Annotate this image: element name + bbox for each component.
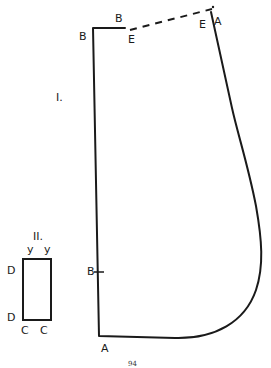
label-y-left: y [27,243,34,256]
label-d-lower: D [7,311,15,324]
pattern-outline [93,12,261,338]
label-top-b: B [115,12,123,25]
label-y-right: y [44,243,51,256]
label-top-right-a: A [214,15,222,28]
pattern-piece-2: II. y y D D C C [7,230,51,337]
label-dashed-start-e: E [128,33,135,46]
pattern-diagram: I. B B E E A B A II. y y D D C C 94 [0,0,271,368]
pattern-piece-1: I. B B E E A B A [56,6,261,355]
label-bottom-a: A [101,342,109,355]
dashed-end-dot [212,6,214,8]
small-rectangle [23,259,51,320]
page-number: 94 [128,360,137,368]
label-top-left-b: B [79,30,87,43]
label-d-upper: D [7,264,15,277]
label-c-left: C [21,324,29,337]
numeral-two: II. [33,230,43,243]
label-c-right: C [40,324,48,337]
label-side-b: B [87,265,95,278]
numeral-one: I. [56,91,63,104]
label-dashed-end-e: E [199,18,206,31]
